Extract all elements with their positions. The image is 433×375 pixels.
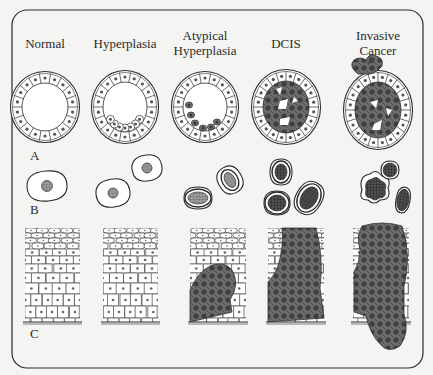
column-header-atypical-hyperplasia: AtypicalHyperplasia xyxy=(160,28,250,58)
column-header-line: Atypical xyxy=(160,28,250,43)
duct-dcis xyxy=(252,70,321,145)
cell-invasive-3 xyxy=(394,186,412,214)
row-c-tissue xyxy=(10,223,430,350)
cell-hyperplasia-1 xyxy=(94,176,132,209)
column-header-line: Cancer xyxy=(333,43,423,58)
row-label-a: A xyxy=(30,148,39,164)
cell-dcis-3 xyxy=(289,177,329,219)
cell-invasive-2 xyxy=(381,161,399,179)
tissue-dcis xyxy=(253,228,346,331)
cell-dcis-1 xyxy=(270,159,292,185)
row-label-c: C xyxy=(30,326,39,342)
column-header-line: DCIS xyxy=(241,36,331,51)
tissue-hyperplasia xyxy=(88,228,181,331)
cell-atypical-1 xyxy=(184,187,212,209)
column-header-line: Invasive xyxy=(333,28,423,43)
cell-atypical-2 xyxy=(213,162,248,198)
column-header-line: Hyperplasia xyxy=(80,36,170,51)
tissue-atypical-hyperplasia xyxy=(175,228,267,331)
cell-normal xyxy=(26,169,68,202)
cell-dcis-2 xyxy=(264,191,290,215)
tissue-normal xyxy=(10,228,102,331)
column-header-hyperplasia: Hyperplasia xyxy=(80,36,170,51)
row-label-b: B xyxy=(30,202,39,218)
row-a-ducts xyxy=(11,55,413,150)
tissue-invasive-cancer xyxy=(338,223,430,350)
column-header-dcis: DCIS xyxy=(241,36,331,51)
column-header-invasive-cancer: InvasiveCancer xyxy=(333,28,423,58)
duct-hyperplasia xyxy=(92,71,159,144)
cell-hyperplasia-2 xyxy=(130,153,164,184)
column-header-line: Normal xyxy=(0,36,90,51)
duct-normal xyxy=(11,72,80,143)
column-header-line: Hyperplasia xyxy=(160,43,250,58)
duct-atypical-hyperplasia xyxy=(172,72,239,143)
row-b-cells xyxy=(26,153,412,220)
column-header-normal: Normal xyxy=(0,36,90,51)
duct-invasive-cancer xyxy=(344,55,413,150)
